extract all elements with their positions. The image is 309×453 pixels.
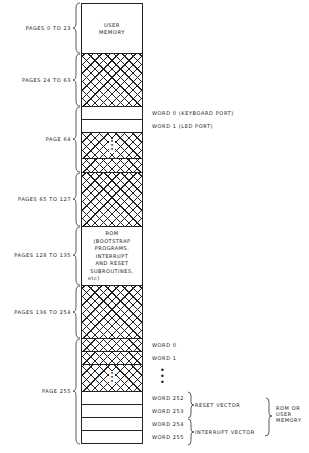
segment-page255-word254 — [81, 417, 143, 430]
ellipsis-icon: ••• — [109, 139, 115, 153]
ellipsis-label: ••• — [160, 368, 165, 386]
label-pages-24-63: PAGES 24 TO 63 — [22, 77, 71, 83]
label-page255-word255: WORD 255 — [152, 434, 184, 440]
user-memory-line2: MEMORY — [82, 29, 142, 36]
rom-or-user-line3: MEMORY — [276, 417, 302, 423]
segment-pages-136-254 — [81, 285, 143, 338]
label-page255-word0: WORD 0 — [152, 342, 177, 348]
segment-page255-word252 — [81, 391, 143, 404]
label-pages-136-254: PAGES 136 TO 254 — [14, 309, 71, 315]
segment-page255-word0 — [81, 338, 143, 351]
segment-page255-word255 — [81, 430, 143, 444]
user-memory-line1: USER — [82, 22, 142, 29]
segment-page255-middle: ••• — [81, 364, 143, 391]
label-page255-word1: WORD 1 — [152, 355, 177, 361]
user-memory-text: USER MEMORY — [82, 22, 142, 36]
label-page-64: PAGE 64 — [46, 136, 71, 142]
rom-line: etc) — [82, 275, 142, 283]
rom-line: SUBROUTINES, — [82, 267, 142, 275]
label-reset-vector: RESET VECTOR — [195, 402, 240, 408]
segment-user-memory: USER MEMORY — [81, 3, 143, 53]
ellipsis-icon: ••• — [109, 371, 115, 385]
label-page64-word0: WORD 0 (KEYBOARD PORT) — [152, 110, 234, 116]
rom-or-user-brace — [264, 396, 276, 440]
rom-line: ROM — [82, 230, 142, 238]
label-page255-word252: WORD 252 — [152, 395, 184, 401]
segment-pages-65-127 — [81, 172, 143, 226]
rom-line: AND RESET — [82, 260, 142, 268]
segment-page64-middle: ••• — [81, 132, 143, 158]
label-page255-word253: WORD 253 — [152, 408, 184, 414]
rom-line: (BOOTSTRAP — [82, 237, 142, 245]
label-pages-128-135: PAGES 128 TO 135 — [14, 252, 71, 258]
rom-line: PROGRAMS, — [82, 245, 142, 253]
segment-page255-word253 — [81, 404, 143, 417]
label-rom-or-user-memory: ROM OR USER MEMORY — [276, 405, 302, 423]
segment-rom: ROM (BOOTSTRAP PROGRAMS, INTERRUPT AND R… — [81, 226, 143, 285]
rom-text: ROM (BOOTSTRAP PROGRAMS, INTERRUPT AND R… — [82, 230, 142, 283]
segment-page64-last — [81, 158, 143, 172]
segment-pages-24-63 — [81, 53, 143, 106]
label-page64-word1: WORD 1 (LED PORT) — [152, 123, 213, 129]
vector-braces — [186, 390, 198, 446]
label-pages-0-23: PAGES 0 TO 23 — [26, 25, 71, 31]
label-page-255: PAGE 255 — [42, 388, 71, 394]
segment-page64-word0 — [81, 106, 143, 119]
label-interrupt-vector: INTERRUPT VECTOR — [195, 429, 255, 435]
label-pages-65-127: PAGES 65 TO 127 — [18, 196, 71, 202]
rom-line: INTERRUPT — [82, 252, 142, 260]
segment-page64-word1 — [81, 119, 143, 132]
label-page255-word254: WORD 254 — [152, 421, 184, 427]
left-braces — [70, 0, 82, 453]
segment-page255-word1 — [81, 351, 143, 364]
